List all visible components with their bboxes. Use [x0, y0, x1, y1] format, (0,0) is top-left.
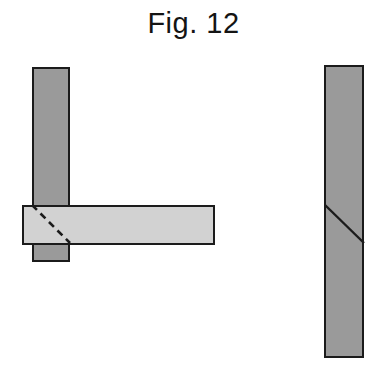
- technical-drawing-canvas: [0, 0, 387, 379]
- left-elevation-view: [23, 68, 214, 261]
- right-section-view: [325, 66, 364, 357]
- figure-root: Fig. 12: [0, 0, 387, 379]
